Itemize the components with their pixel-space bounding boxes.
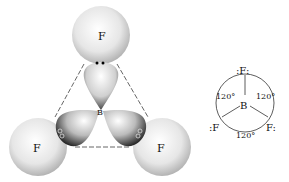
lewis-structure: B :F: :F F: 120° 120° 120° bbox=[209, 65, 276, 140]
orbital-lobe-left bbox=[56, 110, 99, 146]
boron-label: B bbox=[97, 108, 103, 117]
lewis-fluorine-top: :F: bbox=[236, 65, 249, 76]
lewis-fluorine-right: F: bbox=[266, 122, 276, 133]
svg-text:F: F bbox=[33, 142, 41, 155]
angle-label-right: 120° bbox=[256, 92, 275, 101]
orbital-lobe-right bbox=[103, 110, 146, 146]
angle-label-bottom: 120° bbox=[236, 131, 255, 140]
svg-text:F: F bbox=[157, 142, 165, 155]
angle-label-left: 120° bbox=[216, 92, 235, 101]
svg-text:F: F bbox=[98, 30, 106, 43]
lewis-boron: B bbox=[240, 100, 247, 111]
fluorine-sphere-top: F bbox=[72, 6, 130, 64]
lewis-fluorine-left: :F bbox=[209, 122, 219, 133]
orbital-lobe-top bbox=[84, 62, 119, 110]
bf3-diagram: F F F B B :F: :F F: 120° 120° 120° bbox=[0, 0, 289, 182]
